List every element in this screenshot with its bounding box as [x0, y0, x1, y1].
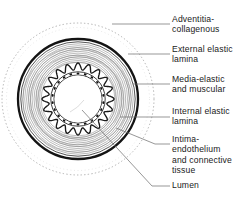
endothelial-nucleus — [77, 124, 80, 126]
label-line: lamina — [172, 116, 198, 126]
label-line: Intima- — [172, 134, 199, 144]
label-line: lamina — [172, 54, 198, 64]
label-line: Internal elastic — [172, 106, 230, 116]
label-line: Media-elastic — [172, 74, 225, 84]
label-lumen: Lumen — [172, 180, 199, 190]
label-adventitia: Adventitia-collagenous — [172, 14, 220, 34]
label-media: Media-elasticand muscular — [172, 74, 225, 94]
label-line: tissue — [172, 165, 195, 175]
label-line: and connective — [172, 155, 232, 165]
label-line: External elastic — [172, 44, 233, 54]
lumen-area — [55, 76, 102, 123]
label-line: Adventitia- — [172, 14, 214, 24]
endothelial-nucleus — [77, 72, 80, 74]
artery-cross-section-figure: Adventitia-collagenousExternal elasticla… — [0, 0, 249, 199]
label-line: and muscular — [172, 84, 225, 94]
label-line: endothelium — [172, 144, 220, 154]
label-line: collagenous — [172, 24, 220, 34]
label-line: Lumen — [172, 180, 199, 190]
lumen-layer — [55, 76, 102, 123]
